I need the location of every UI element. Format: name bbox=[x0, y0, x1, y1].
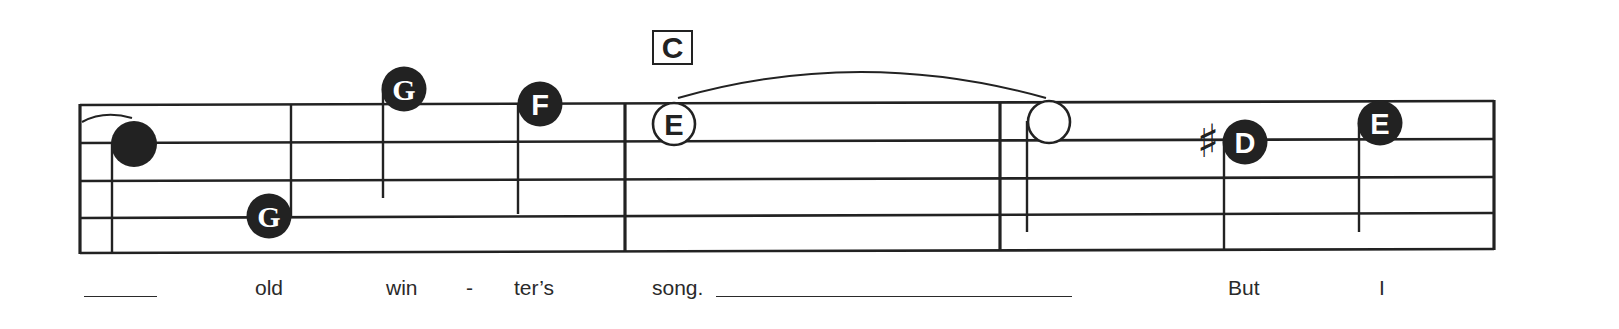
svg-text:E: E bbox=[664, 109, 683, 141]
lyric-song: song. bbox=[652, 276, 703, 300]
note-6 bbox=[1027, 101, 1070, 232]
note-1 bbox=[111, 121, 157, 253]
lyric-hyphen: - bbox=[466, 276, 473, 300]
sharp-icon: ♯ bbox=[1197, 114, 1219, 168]
note-2-g: G bbox=[247, 105, 292, 239]
tie-long bbox=[678, 72, 1046, 98]
lyric-extender-start bbox=[84, 296, 157, 297]
note-5-e: E bbox=[653, 103, 695, 145]
tie-start bbox=[82, 115, 132, 122]
lyric-extender-song bbox=[716, 296, 1072, 297]
lyric-win: win bbox=[386, 276, 418, 300]
lyric-ters: ter’s bbox=[514, 276, 554, 300]
svg-text:D: D bbox=[1235, 127, 1256, 159]
svg-text:G: G bbox=[257, 200, 280, 233]
lyric-i: I bbox=[1379, 276, 1385, 300]
svg-text:F: F bbox=[531, 89, 549, 121]
lyric-but: But bbox=[1228, 276, 1260, 300]
svg-text:G: G bbox=[392, 73, 415, 106]
music-staff: G G F E ♯ D E bbox=[0, 0, 1619, 329]
chord-symbol: C bbox=[652, 30, 693, 65]
note-7-d-sharp: ♯ D bbox=[1197, 114, 1268, 249]
note-3-g: G bbox=[382, 67, 427, 199]
svg-text:E: E bbox=[1370, 108, 1389, 140]
lyric-old: old bbox=[255, 276, 283, 300]
note-4-f: F bbox=[518, 82, 563, 215]
